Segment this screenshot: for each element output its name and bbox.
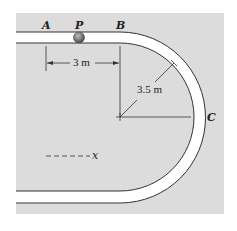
dim-label-3-5m: 3.5 m <box>136 84 163 95</box>
dim-label-3m: 3 m <box>72 57 91 68</box>
label-x: x <box>92 150 98 161</box>
track-drawing <box>0 0 237 231</box>
ball-p <box>74 32 85 43</box>
label-a: A <box>42 20 51 31</box>
label-b: B <box>116 20 125 31</box>
label-p: P <box>75 20 83 31</box>
track-figure: A P B C 3 m 3.5 m x <box>0 0 237 231</box>
label-c: C <box>207 112 216 123</box>
